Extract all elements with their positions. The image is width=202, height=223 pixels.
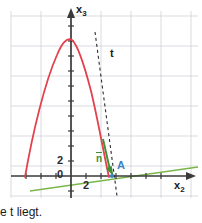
y-tick-label-0: 0 — [57, 169, 63, 180]
point-a-label: A — [117, 160, 125, 171]
x3-axis-label: x3 — [76, 4, 87, 18]
coordinate-plot — [0, 0, 202, 223]
y-tick-label-2: 2 — [57, 155, 63, 166]
figure-caption: e t liegt. — [0, 203, 202, 223]
x-tick-label-2: 2 — [83, 180, 89, 191]
point-a-marker — [110, 174, 114, 178]
normal-vector-label: n — [96, 152, 102, 164]
x2-axis-label: x2 — [174, 180, 185, 194]
figure-container: x3 x2 2 0 2 t n A — [0, 0, 202, 223]
axes — [11, 8, 196, 198]
tangent-label-t: t — [110, 48, 114, 59]
